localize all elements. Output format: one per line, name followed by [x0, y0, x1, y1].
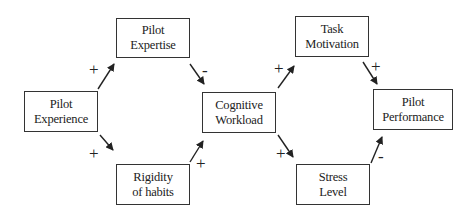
edge-experience-to-expertise-arrow	[98, 64, 114, 89]
node-label-line2: Motivation	[305, 37, 359, 52]
node-label-line1: Task	[321, 22, 344, 37]
edge-sign-expertise-workload: -	[202, 62, 208, 79]
node-pilot-experience: Pilot Experience	[24, 91, 98, 132]
edge-experience-to-rigidity-arrow	[100, 135, 113, 150]
edge-sign-rigidity-workload: +	[196, 155, 206, 172]
edge-sign-workload-stress: +	[276, 145, 286, 162]
node-pilot-expertise: Pilot Expertise	[116, 18, 190, 58]
edge-sign-motivation-performance: +	[371, 58, 381, 75]
edge-sign-stress-performance: -	[378, 148, 384, 165]
node-stress-level: Stress Level	[296, 164, 370, 205]
node-label-line2: Expertise	[130, 38, 175, 53]
node-label-line2: Experience	[34, 112, 88, 127]
node-cognitive-workload: Cognitive Workload	[202, 92, 276, 133]
edge-sign-workload-motivation: +	[274, 60, 284, 77]
node-label-line1: Pilot	[50, 97, 73, 112]
edge-sign-experience-expertise: +	[89, 61, 99, 78]
node-label-line2: Performance	[382, 110, 444, 125]
node-label-line1: Pilot	[142, 23, 165, 38]
node-pilot-performance: Pilot Performance	[373, 89, 453, 130]
node-label-line1: Stress	[319, 170, 348, 185]
node-rigidity-of-habits: Rigidity of habits	[116, 164, 190, 205]
node-label-line2: of habits	[132, 185, 174, 200]
node-label-line2: Level	[319, 185, 346, 200]
node-label-line2: Workload	[215, 113, 262, 128]
node-label-line1: Cognitive	[215, 98, 263, 113]
node-label-line1: Rigidity	[133, 170, 172, 185]
node-task-motivation: Task Motivation	[295, 16, 369, 57]
edge-sign-experience-rigidity: +	[89, 145, 99, 162]
node-label-line1: Pilot	[402, 95, 425, 110]
